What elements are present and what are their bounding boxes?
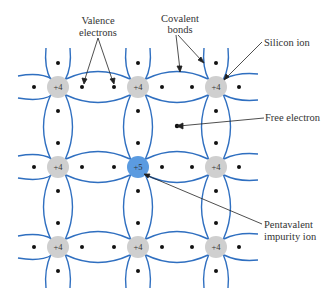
lattice-diagram: +4 +4 +4 +4 +5 +4 +4 +4 +4 Valence elect… [0,0,334,300]
free-electron-label: Free electron [265,112,321,123]
silicon-ion-label: Silicon ion [264,37,311,48]
silicon-ion: +4 [47,76,69,98]
svg-text:+4: +4 [53,242,63,252]
labels: Valence electrons Covalent bonds Silicon… [79,13,321,242]
svg-text:electrons: electrons [79,27,117,38]
silicon-ion: +4 [127,76,149,98]
annotation-arrows [82,35,264,224]
valence-electrons-label: Valence [81,15,115,26]
silicon-ion: +4 [205,236,227,258]
svg-text:+4: +4 [133,82,143,92]
svg-text:impurity ion: impurity ion [264,231,317,242]
svg-text:+4: +4 [211,242,221,252]
svg-text:+4: +4 [133,242,143,252]
svg-text:bonds: bonds [167,24,192,35]
svg-text:+4: +4 [211,82,221,92]
svg-text:+5: +5 [133,162,142,172]
silicon-ion: +4 [47,156,69,178]
silicon-ion: +4 [127,236,149,258]
pentavalent-label: Pentavalent [264,219,313,230]
ions: +4 +4 +4 +4 +5 +4 +4 +4 +4 [47,76,227,258]
svg-text:+4: +4 [53,82,63,92]
svg-text:+4: +4 [211,162,221,172]
silicon-ion: +4 [205,76,227,98]
silicon-ion: +4 [205,156,227,178]
svg-text:+4: +4 [53,162,63,172]
covalent-bonds-label: Covalent [161,13,199,24]
silicon-ion: +4 [47,236,69,258]
